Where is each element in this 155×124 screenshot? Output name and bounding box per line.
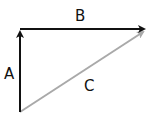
- label-c: C: [84, 77, 94, 95]
- vector-diagram: B A C: [0, 0, 155, 124]
- vector-c-arrow: [20, 32, 143, 112]
- label-a: A: [4, 65, 15, 83]
- label-b: B: [75, 7, 85, 25]
